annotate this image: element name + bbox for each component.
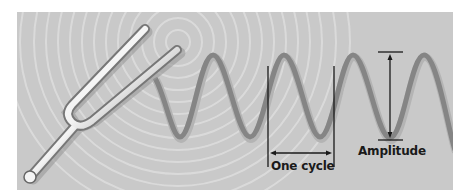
diagram-svg: [17, 12, 453, 190]
one-cycle-label: One cycle: [271, 159, 335, 173]
amplitude-label: Amplitude: [358, 144, 426, 158]
diagram-panel: One cycle Amplitude: [17, 12, 453, 190]
